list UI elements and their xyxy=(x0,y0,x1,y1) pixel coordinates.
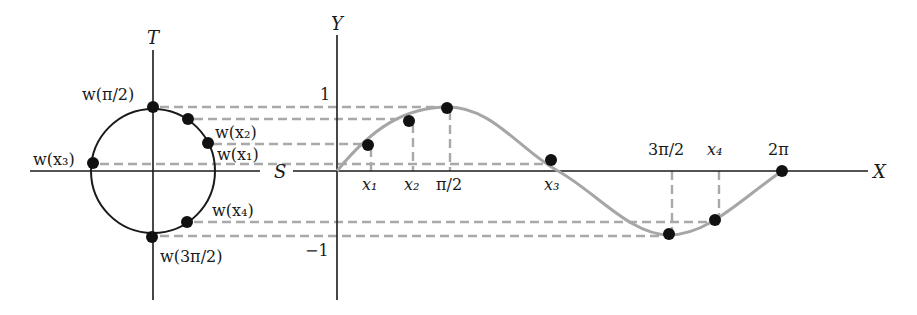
tick-label-3pi-over-2: 3π/2 xyxy=(648,140,684,159)
sine-axes xyxy=(330,35,868,300)
point-pi-over-2 xyxy=(441,102,453,114)
label-w-3pi-over-2: w(3π/2) xyxy=(160,247,222,266)
label-x-axis: X xyxy=(871,161,887,182)
point-w-3pi-over-2 xyxy=(146,231,158,243)
tick-label-x4: x₄ xyxy=(707,140,722,159)
label-w-x2: w(x₂) xyxy=(215,123,257,142)
point-x3 xyxy=(545,154,557,166)
label-w-x4: w(x₄) xyxy=(212,201,254,220)
label-w-x1: w(x₁) xyxy=(217,145,259,164)
point-w-x3 xyxy=(87,157,99,169)
label-w-pi-over-2: w(π/2) xyxy=(82,85,134,104)
tick-label-x2: x₂ xyxy=(404,175,419,194)
tick-label-minus-1: −1 xyxy=(305,241,329,260)
label-y-axis: Y xyxy=(331,13,345,34)
point-w-x1 xyxy=(202,137,214,149)
circle-labels: T S w(π/2) w(x₂) w(x₁) w(x₃) w(x₄) w(3π/… xyxy=(33,27,286,266)
point-x2 xyxy=(403,115,415,127)
tick-label-x3: x₃ xyxy=(544,175,559,194)
tick-label-pi-over-2: π/2 xyxy=(436,175,462,194)
point-3pi-over-2 xyxy=(663,228,675,240)
point-w-pi-over-2 xyxy=(147,101,159,113)
point-w-x2 xyxy=(182,113,194,125)
tick-label-1: 1 xyxy=(320,85,330,104)
label-s-axis: S xyxy=(274,161,286,182)
wrapping-function-diagram: T S w(π/2) w(x₂) w(x₁) w(x₃) w(x₄) w(3π/… xyxy=(0,0,917,315)
label-w-x3: w(x₃) xyxy=(33,150,75,169)
tick-label-2pi: 2π xyxy=(768,140,789,159)
point-x4 xyxy=(709,214,721,226)
point-2pi xyxy=(776,165,788,177)
label-t-axis: T xyxy=(147,27,161,48)
diagram-canvas: T S w(π/2) w(x₂) w(x₁) w(x₃) w(x₄) w(3π/… xyxy=(0,0,917,315)
point-x1 xyxy=(362,139,374,151)
point-w-x4 xyxy=(181,216,193,228)
tick-label-x1: x₁ xyxy=(362,175,377,194)
